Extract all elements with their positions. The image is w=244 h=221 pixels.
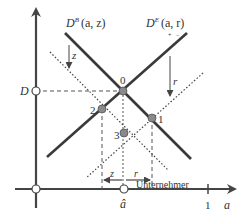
de-sign-r: − (176, 32, 180, 38)
de-shifted-curve (86, 73, 203, 178)
db-label: DB(a, z) (65, 16, 106, 30)
r-bottom-label: r (134, 168, 138, 179)
r-shift-label: r (173, 75, 178, 87)
z-bottom-label: z (109, 168, 114, 179)
y-marker-label: D (19, 84, 29, 98)
origin-marker (32, 185, 40, 193)
point-1-label: 1 (158, 113, 164, 125)
de-label: DE(a, r) (145, 16, 184, 30)
point-0-label: 0 (120, 74, 126, 86)
point-0 (119, 87, 127, 95)
de-sign-a: + (168, 32, 172, 38)
a-hat-label: â (120, 197, 126, 211)
x-tick-one-label: 1 (205, 199, 211, 211)
point-3 (120, 129, 128, 137)
z-shift-label: z (71, 49, 77, 61)
d-marker (32, 87, 40, 95)
x-axis-label: a (224, 198, 230, 212)
point-1 (148, 114, 156, 122)
point-2-label: 2 (90, 104, 96, 116)
point-2 (98, 105, 106, 113)
db-shifted-curve (50, 52, 168, 170)
region-label: Unternehmer (136, 179, 189, 190)
economics-diagram: DB(a, z) DE(a, r) + − z r 0 1 2 3 D a 1 … (0, 0, 244, 221)
db-curve (65, 33, 191, 159)
a-hat-marker (120, 185, 128, 193)
point-3-label: 3 (114, 129, 120, 141)
